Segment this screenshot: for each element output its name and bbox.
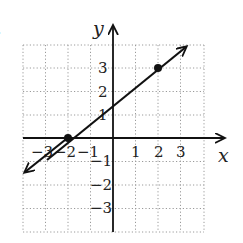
y-axis-label: y — [92, 17, 104, 39]
y-tick-label: −2 — [90, 176, 112, 194]
x-tick-label: 2 — [154, 143, 164, 161]
y-tick-label: 2 — [98, 83, 108, 101]
coordinate-plane: . x y −3 −2 −1 1 2 3 3 — [0, 0, 243, 243]
x-tick-label: 1 — [131, 143, 141, 161]
problem-number: . — [0, 14, 2, 40]
point-neg2-0 — [64, 134, 72, 142]
x-tick-label: 3 — [176, 143, 186, 161]
y-tick-label: −1 — [90, 152, 112, 170]
axes — [23, 26, 224, 232]
x-axis-label: x — [218, 144, 229, 166]
y-tick-label: −3 — [90, 199, 112, 217]
point-2-3 — [154, 64, 162, 72]
y-tick-label: 3 — [98, 59, 108, 77]
